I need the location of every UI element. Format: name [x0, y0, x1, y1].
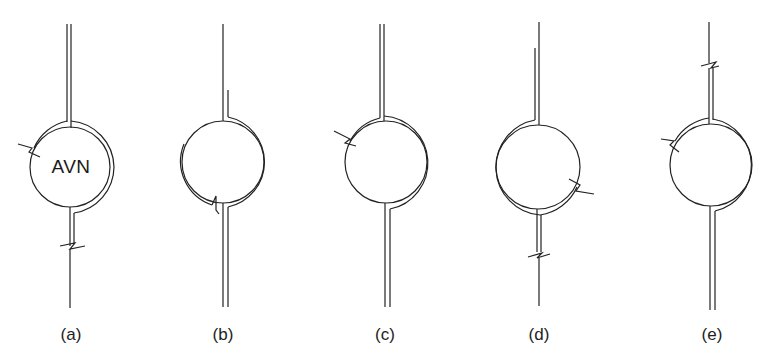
- panel-c-diagram: [334, 24, 428, 307]
- panel-label-b: (b): [213, 325, 234, 345]
- panel-e-diagram: [661, 22, 752, 310]
- panel-label-d: (d): [529, 325, 550, 345]
- node-circle: [182, 121, 264, 203]
- block-break-icon: [60, 243, 85, 249]
- node-circle: [345, 121, 427, 203]
- panel-b-diagram: [181, 24, 265, 307]
- panel-label-e: (e): [702, 325, 723, 345]
- panel-d-diagram: [496, 22, 594, 306]
- node-circle: [496, 125, 580, 209]
- block-break-icon: [569, 179, 594, 194]
- panel-label-a: (a): [61, 325, 82, 345]
- diagram-canvas: [0, 0, 773, 362]
- block-break-icon: [701, 62, 719, 68]
- block-break-icon: [661, 139, 679, 152]
- avn-node-label: AVN: [51, 156, 90, 178]
- block-break-icon: [212, 196, 219, 214]
- avn-pathway-figure: AVN (a) (b) (c) (d) (e): [0, 0, 773, 362]
- block-break-icon: [528, 253, 550, 258]
- node-circle: [670, 124, 752, 206]
- block-break-icon: [18, 144, 40, 157]
- panel-label-c: (c): [375, 325, 395, 345]
